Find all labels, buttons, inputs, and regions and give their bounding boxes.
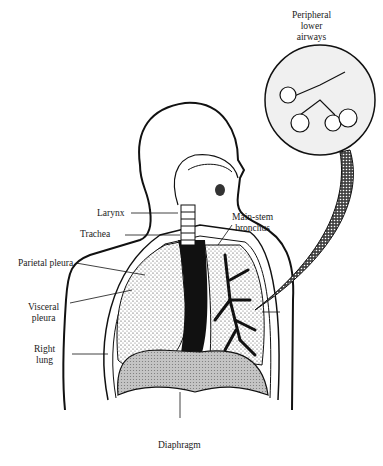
label-main-stem-bronchus: Main-stem bronchus: [232, 212, 273, 234]
label-line: airways: [292, 32, 331, 43]
trachea: [181, 205, 195, 245]
label-line: Right: [34, 344, 55, 355]
label-diaphragm: Diaphragm: [158, 440, 201, 451]
label-line: pleura: [28, 313, 59, 324]
label-line: Visceral: [28, 302, 59, 313]
label-line: lung: [34, 355, 55, 366]
label-visceral-pleura: Visceral pleura: [28, 302, 59, 324]
label-line: lower: [292, 21, 331, 32]
anatomy-illustration: [0, 0, 383, 466]
label-peripheral-airways: Peripheral lower airways: [292, 10, 331, 43]
label-parietal-pleura: Parietal pleura: [18, 258, 73, 269]
diaphragm: [118, 350, 268, 395]
label-right-lung: Right lung: [34, 344, 55, 366]
label-line: Peripheral: [292, 10, 331, 21]
left-lung: [205, 245, 264, 365]
right-lung: [117, 242, 186, 367]
label-line: bronchus: [232, 223, 273, 234]
label-line: Main-stem: [232, 212, 273, 223]
label-trachea: Trachea: [80, 229, 110, 240]
label-larynx: Larynx: [97, 208, 124, 219]
